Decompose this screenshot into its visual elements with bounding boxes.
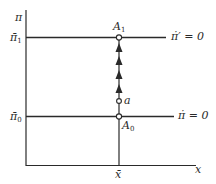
point-a-marker xyxy=(117,99,122,104)
point-A0-label: A0 xyxy=(122,120,134,133)
point-a-label: a xyxy=(124,95,131,106)
arrow-up-icon xyxy=(116,70,123,79)
arrow-up-icon xyxy=(116,43,123,52)
arrow-up-icon xyxy=(116,56,123,65)
point-A0-marker xyxy=(116,114,121,119)
arrow-up-icon xyxy=(116,84,123,93)
pi-bar-1-label: π̄1 xyxy=(10,32,22,45)
x-bar-label: x̄ xyxy=(115,169,121,180)
diagram-canvas xyxy=(0,0,216,184)
x-axis-label: x xyxy=(195,164,201,175)
y-axis-label: π xyxy=(15,12,22,23)
point-A1-marker xyxy=(116,35,121,40)
pi-bar-0-label: π̄0 xyxy=(10,111,22,124)
pi-dot-prime-zero-label: π̇′ = 0 xyxy=(171,31,204,42)
point-A1-label: A1 xyxy=(113,21,125,34)
pi-dot-zero-label: π̇ = 0 xyxy=(178,110,208,121)
phase-diagram: π x π̄1 π̄0 π̇′ = 0 π̇ = 0 x̄ A1 a A0 xyxy=(0,0,216,184)
